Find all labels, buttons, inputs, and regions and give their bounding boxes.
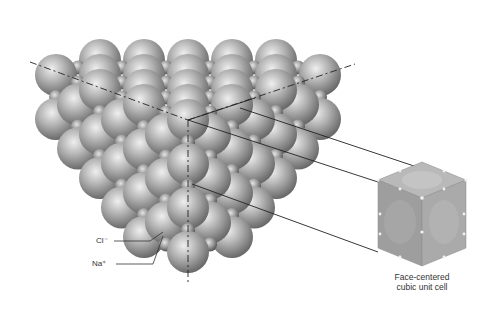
caption-line-1: Face-centered xyxy=(367,272,477,282)
sodium-label: Na⁺ xyxy=(92,259,106,269)
chloride-label: Cl⁻ xyxy=(96,236,108,246)
nacl-crystal-diagram xyxy=(0,0,495,309)
chloride-ion xyxy=(167,187,209,229)
caption-line-2: cubic unit cell xyxy=(367,282,477,292)
unit-cell-caption: Face-centered cubic unit cell xyxy=(367,272,477,292)
unit-cell-cube xyxy=(376,162,467,266)
chloride-ion xyxy=(167,143,209,185)
